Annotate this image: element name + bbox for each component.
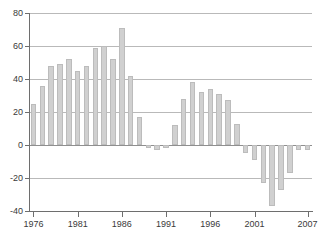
x-tick-mark: [122, 212, 123, 217]
bar: [48, 66, 53, 145]
x-tick-label: 1976: [23, 220, 43, 229]
x-tick-label: 1996: [200, 220, 220, 229]
x-tick-label: 1981: [68, 220, 88, 229]
bar: [190, 82, 195, 145]
bar: [57, 64, 62, 145]
x-tick-label: 1986: [112, 220, 132, 229]
bar: [66, 59, 71, 145]
bar: [181, 99, 186, 145]
gridline: [29, 46, 312, 47]
bar: [40, 86, 45, 145]
bar: [31, 104, 36, 145]
bar-chart: 806040200-20-40 197619811986199119962001…: [0, 0, 320, 245]
bar: [75, 71, 80, 145]
bar: [296, 145, 301, 150]
bar: [243, 145, 248, 153]
bar: [119, 28, 124, 145]
bar: [199, 92, 204, 145]
x-tick-mark: [78, 212, 79, 217]
y-tick-label: 0: [18, 141, 23, 150]
gridline: [29, 13, 312, 14]
bar: [146, 145, 151, 148]
x-tick-label: 2007: [298, 220, 318, 229]
bar: [154, 145, 159, 150]
bar: [128, 76, 133, 145]
bar: [234, 124, 239, 145]
x-tick-mark: [166, 212, 167, 217]
bar: [101, 46, 106, 145]
bar: [172, 125, 177, 145]
y-tick-label: 80: [13, 9, 23, 18]
bar: [269, 145, 274, 206]
y-tick-label: -40: [10, 207, 23, 216]
bar: [84, 66, 89, 145]
x-tick-label: 1991: [156, 220, 176, 229]
x-tick-mark: [210, 212, 211, 217]
bar: [287, 145, 292, 173]
bar: [252, 145, 257, 160]
x-axis-ticks: 1976198119861991199620012007: [29, 212, 313, 245]
bar: [163, 145, 168, 148]
y-axis-line: [29, 13, 30, 211]
x-tick-mark: [255, 212, 256, 217]
y-tick-label: 40: [13, 75, 23, 84]
x-tick-mark: [33, 212, 34, 217]
bar: [137, 117, 142, 145]
x-tick-mark: [308, 212, 309, 217]
bar: [305, 145, 310, 150]
plot-area: 806040200-20-40: [29, 13, 312, 211]
x-tick-label: 2001: [245, 220, 265, 229]
bar: [208, 89, 213, 145]
bar: [93, 48, 98, 145]
bar: [278, 145, 283, 190]
bar: [261, 145, 266, 183]
bar: [110, 59, 115, 145]
bar: [216, 94, 221, 145]
y-tick-label: -20: [10, 174, 23, 183]
bar: [225, 100, 230, 145]
y-tick-label: 20: [13, 108, 23, 117]
y-tick-label: 60: [13, 42, 23, 51]
